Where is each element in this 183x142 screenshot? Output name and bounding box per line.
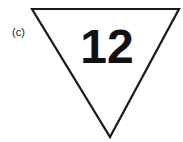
inverted-triangle-sign: 12 [0, 0, 183, 142]
sign-number: 12 [80, 20, 133, 73]
